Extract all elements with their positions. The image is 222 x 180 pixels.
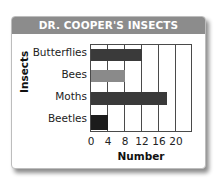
x-tick-20: 20 [169, 135, 182, 147]
bar-beetles [91, 115, 108, 130]
gridline [158, 45, 159, 131]
x-axis-label: Number [90, 150, 192, 162]
chart-title: DR. COOPER'S INSECTS [12, 17, 205, 34]
bar-butterflies [91, 49, 142, 61]
bar-bees [91, 70, 125, 82]
gridline [175, 45, 176, 131]
x-tick-8: 8 [122, 135, 129, 147]
category-label-butterflies: Butterflies [33, 46, 87, 58]
category-label-beetles: Beetles [48, 112, 87, 124]
x-tick-4: 4 [105, 135, 112, 147]
x-tick-12: 12 [135, 135, 148, 147]
x-tick-0: 0 [88, 135, 95, 147]
chart-card: DR. COOPER'S INSECTS Insects Butterflies… [11, 16, 206, 169]
y-axis-label: Insects [18, 51, 30, 93]
bar-moths [91, 92, 167, 105]
category-label-bees: Bees [61, 68, 87, 80]
x-tick-16: 16 [152, 135, 165, 147]
category-label-moths: Moths [55, 90, 87, 102]
plot-area [90, 44, 192, 132]
